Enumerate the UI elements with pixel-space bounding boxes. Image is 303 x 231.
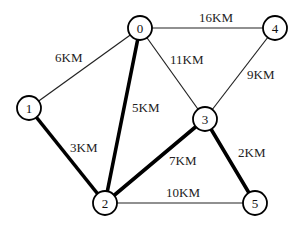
node-label: 4: [272, 21, 279, 36]
edge-1-2: [29, 108, 105, 203]
graph-diagram: 6KM16KM11KM5KM9KM3KM7KM2KM10KM 012345: [0, 0, 303, 231]
edge-label-0-1: 6KM: [55, 50, 83, 65]
node-1: 1: [17, 96, 41, 120]
edge-0-1: [29, 28, 140, 108]
node-2: 2: [93, 191, 117, 215]
node-4: 4: [263, 16, 287, 40]
edge-label-0-3: 11KM: [170, 52, 204, 67]
nodes-layer: 012345: [17, 16, 287, 215]
edge-label-0-2: 5KM: [132, 100, 160, 115]
node-label: 2: [102, 196, 109, 211]
node-label: 3: [202, 112, 209, 127]
edge-label-0-4: 16KM: [199, 10, 233, 25]
node-5: 5: [243, 191, 267, 215]
node-0: 0: [128, 16, 152, 40]
node-3: 3: [193, 107, 217, 131]
node-label: 1: [26, 101, 33, 116]
edge-label-2-5: 10KM: [166, 185, 200, 200]
edge-label-2-3: 7KM: [169, 153, 197, 168]
edge-label-3-5: 2KM: [238, 145, 266, 160]
edge-3-5: [205, 119, 255, 203]
edge-label-4-3: 9KM: [247, 67, 275, 82]
edge-label-1-2: 3KM: [70, 140, 98, 155]
node-label: 5: [252, 196, 259, 211]
edge-labels-layer: 6KM16KM11KM5KM9KM3KM7KM2KM10KM: [55, 10, 275, 200]
node-label: 0: [137, 21, 144, 36]
